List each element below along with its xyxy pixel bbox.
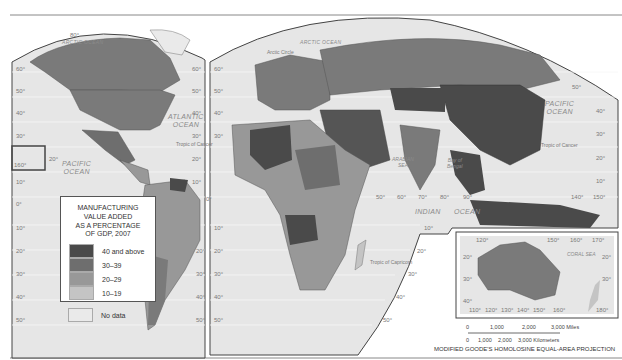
coral-sea-label: CORAL SEA — [567, 252, 596, 258]
lon-label: 60° — [397, 194, 406, 200]
inset-lon-label: 110° — [469, 307, 481, 313]
inset-lon-label: 180° — [596, 307, 608, 313]
legend-item: 40 and above — [69, 244, 144, 258]
lat-label: 50° — [16, 88, 25, 94]
legend-title-line: MANUFACTURING — [61, 204, 155, 213]
land-europe — [255, 55, 330, 110]
arctic-circle-label: Arctic Circle — [267, 50, 294, 55]
lon-label: 80° — [440, 194, 449, 200]
inset-lon-label: 140° — [517, 307, 529, 313]
inset-lat-label: 40° — [463, 298, 472, 304]
legend-swatch — [68, 308, 93, 322]
inset-lat-label: 20° — [463, 254, 472, 260]
lat-label: 10° — [16, 179, 25, 185]
bay-of-bengal-label: Bay of Bengal — [447, 158, 463, 170]
lon-label: 50° — [376, 194, 385, 200]
lat-label: 30° — [596, 131, 605, 137]
legend-label: 20–29 — [102, 276, 121, 283]
pacific-right-line-2: OCEAN — [545, 108, 574, 116]
inset-lon-label: 160° — [553, 307, 565, 313]
arctic-ocean-left-label: ARCTIC OCEAN — [62, 40, 103, 46]
atlantic-line-2: OCEAN — [168, 121, 204, 129]
inset-lon-label: 120° — [485, 307, 497, 313]
legend-swatch — [69, 272, 94, 286]
tropic-cancer-left-label: Tropic of Cancer — [176, 142, 213, 147]
inset-lon-label: 170° — [592, 237, 604, 243]
lat-label: 50° — [383, 317, 392, 323]
lat-label: 20° — [417, 248, 426, 254]
lat-label: 50° — [572, 84, 581, 90]
legend-label: No data — [101, 312, 126, 319]
arctic-ocean-right-label: ARCTIC OCEAN — [300, 40, 341, 46]
projection-label: MODIFIED GOODE'S HOMOLOSINE EQUAL-AREA P… — [434, 346, 615, 352]
legend-label: 30–39 — [102, 262, 121, 269]
lat-label: 30° — [214, 133, 223, 139]
inset-lon-label: 130° — [501, 307, 513, 313]
legend-label: 10–19 — [102, 290, 121, 297]
scale-miles-label: 0 — [466, 324, 469, 330]
indian-ocean-label: INDIAN OCEAN — [415, 208, 480, 216]
scale-km-label: 3,000 Kilometers — [518, 337, 559, 343]
scale-km-label: 1,000 — [478, 337, 492, 343]
lat-label: 10° — [16, 225, 25, 231]
scale-km-label: 0 — [466, 337, 469, 343]
lat-label: 40° — [192, 110, 201, 116]
scale-miles-label: 1,000 — [490, 324, 504, 330]
lat-label: 0° — [206, 196, 212, 202]
inset-lon-label: 150° — [547, 237, 559, 243]
legend-title-line: AS A PERCENTAGE — [61, 222, 155, 231]
lat-label: 20° — [596, 155, 605, 161]
arabian-sea-label: ARABIAN SEA — [392, 157, 414, 169]
land-central-africa — [285, 215, 318, 245]
lat-label: 40° — [16, 294, 25, 300]
lat-label: 40° — [16, 110, 25, 116]
land-kazakhstan — [390, 88, 445, 112]
legend-item: 20–29 — [69, 272, 121, 286]
tropic-cancer-right-label: Tropic of Cancer — [541, 143, 578, 148]
ocean-word: OCEAN — [454, 208, 480, 215]
lat-label: 30° — [408, 271, 417, 277]
inset-lat-label: 20° — [602, 254, 611, 260]
lat-label: 30° — [16, 271, 25, 277]
legend-item: 30–39 — [69, 258, 121, 272]
lat-label: 50° — [214, 317, 223, 323]
lat-label: 60° — [214, 66, 223, 72]
lon-label: 70° — [418, 194, 427, 200]
inset-lat-label: 30° — [463, 276, 472, 282]
lat-label: 30° — [214, 271, 223, 277]
lat-label: 40° — [214, 294, 223, 300]
lat-label: 10° — [596, 178, 605, 184]
inset-lon-label: 160° — [570, 237, 582, 243]
lat-label: 60° — [16, 66, 25, 72]
lat-label: 30° — [196, 271, 205, 277]
lat-label: 10° — [214, 225, 223, 231]
legend-title: MANUFACTURING VALUE ADDED AS A PERCENTAG… — [61, 204, 155, 239]
legend: MANUFACTURING VALUE ADDED AS A PERCENTAG… — [60, 196, 156, 302]
pacific-ocean-left-label: PACIFIC OCEAN — [62, 160, 91, 176]
scale: 0 1,000 2,000 3,000 Miles 0 1,000 2,000 … — [440, 322, 620, 358]
indian-word: INDIAN — [415, 208, 441, 215]
pacific-right-line-1: PACIFIC — [545, 100, 574, 108]
lat-label: 50° — [192, 88, 201, 94]
lat-label: 20° — [192, 156, 201, 162]
lat-label: 20° — [16, 248, 25, 254]
scale-miles-label: 2,000 — [522, 324, 536, 330]
lon-label: 160° — [14, 162, 26, 168]
inset-lat-label: 30° — [602, 276, 611, 282]
scale-miles-label: 3,000 Miles — [551, 324, 579, 330]
world-map — [0, 0, 622, 360]
lat-label: 10° — [424, 225, 433, 231]
lat-label: 40° — [396, 294, 405, 300]
lat-label: 40° — [596, 108, 605, 114]
inset-lon-label: 150° — [533, 307, 545, 313]
lat-label: 60° — [192, 66, 201, 72]
legend-item: 10–19 — [69, 286, 121, 300]
arabian-line-2: SEA — [392, 163, 414, 169]
inset-lon-label: 120° — [476, 237, 488, 243]
lat-label: 0° — [16, 201, 22, 207]
legend-title-line: OF GDP, 2007 — [61, 230, 155, 239]
pacific-left-line-2: OCEAN — [62, 168, 91, 176]
lat-label: 50° — [16, 317, 25, 323]
lat-label: 80° — [70, 32, 79, 38]
scale-km-label: 2,000 — [498, 337, 512, 343]
